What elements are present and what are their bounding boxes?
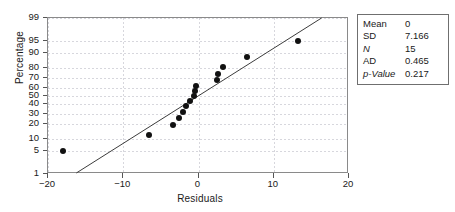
data-point (170, 122, 176, 128)
stats-value: 0.465 (405, 55, 443, 67)
stats-value: 15 (405, 43, 443, 55)
y-axis-tick-label: 10 (0, 133, 39, 143)
data-point (176, 115, 182, 121)
stats-label: SD (363, 30, 405, 42)
x-axis: −20−1001020 (47, 173, 348, 193)
stats-row: SD7.166 (363, 30, 443, 42)
stats-row: N15 (363, 43, 443, 55)
data-point (220, 64, 226, 70)
data-point (187, 98, 193, 104)
stats-box: Mean0SD7.166N15AD0.465p-Value0.217 (357, 14, 449, 85)
normal-reference-line (48, 18, 347, 173)
x-axis-tick-label: 0 (178, 179, 218, 189)
stats-value: 0.217 (405, 68, 443, 80)
x-axis-title: Residuals (150, 193, 250, 204)
stats-value: 0 (405, 18, 443, 30)
y-axis-tick-label: 5 (0, 145, 39, 155)
y-axis: 151020304050607080909599 (0, 17, 47, 173)
y-axis-tick-label: 70 (0, 73, 39, 83)
x-axis-tick-label: −20 (27, 179, 67, 189)
data-point (180, 109, 186, 115)
stats-row: AD0.465 (363, 55, 443, 67)
stats-row: p-Value0.217 (363, 68, 443, 80)
x-axis-tick-label: 10 (253, 179, 293, 189)
y-axis-tick-label: 95 (0, 35, 39, 45)
y-axis-tick-label: 99 (0, 12, 39, 22)
stats-value: 7.166 (405, 30, 443, 42)
stats-label: AD (363, 55, 405, 67)
data-point (146, 132, 152, 138)
y-axis-tick-label: 20 (0, 118, 39, 128)
stats-label: p-Value (363, 68, 405, 80)
stats-row: Mean0 (363, 18, 443, 30)
normal-probability-plot: Percentage Residuals 1510203040506070809… (0, 0, 455, 212)
data-point (295, 38, 301, 44)
data-point (215, 71, 221, 77)
data-point (214, 77, 220, 83)
x-axis-tick-label: 20 (328, 179, 368, 189)
y-axis-tick-label: 1 (0, 168, 39, 178)
x-axis-tick-label: −10 (102, 179, 142, 189)
data-point (244, 54, 250, 60)
y-axis-tick-label: 30 (0, 108, 39, 118)
data-point (183, 103, 189, 109)
stats-label: Mean (363, 18, 405, 30)
y-axis-tick-label: 90 (0, 47, 39, 57)
plot-area (47, 17, 348, 173)
y-axis-tick-label: 60 (0, 82, 39, 92)
y-axis-tick-label: 80 (0, 62, 39, 72)
data-point (192, 88, 198, 94)
stats-label: N (363, 43, 405, 55)
data-point (60, 148, 66, 154)
data-point (193, 83, 199, 89)
